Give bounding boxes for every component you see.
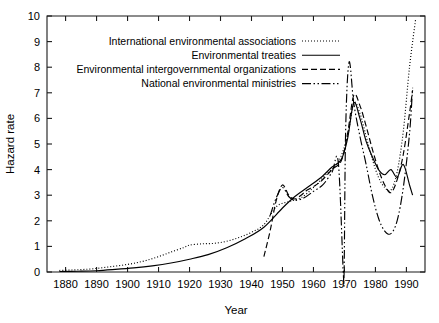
x-tick-label: 1930 xyxy=(208,278,232,290)
x-tick-label: 1890 xyxy=(84,278,108,290)
y-tick-label: 1 xyxy=(34,240,40,252)
y-tick-label: 8 xyxy=(34,61,40,73)
y-tick-label: 9 xyxy=(34,36,40,48)
y-axis-title: Hazard rate xyxy=(4,114,16,174)
x-tick-label: 1910 xyxy=(146,278,170,290)
hazard-rate-chart: 1880189019001910192019301940195019601970… xyxy=(0,0,439,323)
series-line-3 xyxy=(264,90,413,256)
y-tick-label: 2 xyxy=(34,215,40,227)
x-tick-label: 1990 xyxy=(394,278,418,290)
x-tick-label: 1980 xyxy=(363,278,387,290)
legend-label-3: Environmental intergovernmental organiza… xyxy=(77,63,296,75)
x-tick-label: 1950 xyxy=(270,278,294,290)
y-tick-label: 5 xyxy=(34,138,40,150)
chart-legend: International environmental associations… xyxy=(77,35,340,90)
x-tick-label: 1960 xyxy=(301,278,325,290)
legend-label-1: International environmental associations xyxy=(109,35,296,47)
legend-label-2: Environmental treaties xyxy=(192,49,296,61)
x-axis-title: Year xyxy=(224,304,247,316)
x-tick-label: 1970 xyxy=(332,278,356,290)
x-tick-label: 1900 xyxy=(115,278,139,290)
y-tick-label: 3 xyxy=(34,189,40,201)
chart-canvas: 1880189019001910192019301940195019601970… xyxy=(0,0,439,323)
series-line-2 xyxy=(59,102,412,271)
y-tick-label: 0 xyxy=(34,266,40,278)
x-tick-label: 1920 xyxy=(177,278,201,290)
y-tick-label: 4 xyxy=(34,164,40,176)
x-tick-label: 1940 xyxy=(239,278,263,290)
y-tick-label: 6 xyxy=(34,112,40,124)
legend-label-4: National environmental ministries xyxy=(141,77,296,89)
y-tick-label: 10 xyxy=(28,10,40,22)
x-tick-label: 1880 xyxy=(53,278,77,290)
series-line-4 xyxy=(270,62,413,287)
y-tick-label: 7 xyxy=(34,87,40,99)
